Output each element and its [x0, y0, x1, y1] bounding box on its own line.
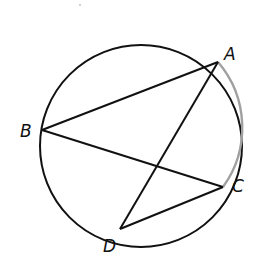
label-a: A [223, 44, 236, 64]
label-d: D [103, 236, 116, 256]
circle [40, 45, 242, 247]
circle-diagram: A B C D [0, 0, 257, 262]
segment-bc [42, 130, 223, 187]
segment-ad [120, 62, 218, 229]
speck [79, 4, 81, 6]
label-c: C [232, 176, 244, 196]
segment-ba [42, 62, 218, 130]
label-b: B [20, 121, 32, 141]
